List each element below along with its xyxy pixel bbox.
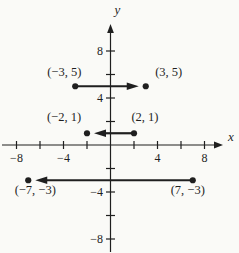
figure-page: xy−8−448−8−448(−3, 5)(3, 5)(2, 1)(−2, 1)… xyxy=(0,0,239,253)
point-label: (7, −3) xyxy=(171,183,205,197)
x-tick-label: 4 xyxy=(155,151,161,165)
vector-end-dot xyxy=(25,177,31,183)
vector-start-dot xyxy=(131,130,137,136)
y-axis-label: y xyxy=(113,2,121,17)
point-label: (3, 5) xyxy=(155,65,182,79)
vector-start-dot xyxy=(72,83,78,89)
y-tick-label: 4 xyxy=(97,91,103,105)
x-tick-label: 8 xyxy=(202,151,208,165)
x-axis-arrowhead-icon xyxy=(214,142,223,149)
vector-end-dot xyxy=(84,130,90,136)
point-label: (2, 1) xyxy=(131,110,158,124)
vector-end-dot xyxy=(143,83,149,89)
coordinate-plane: xy−8−448−8−448(−3, 5)(3, 5)(2, 1)(−2, 1)… xyxy=(0,0,239,253)
x-tick-label: −8 xyxy=(10,151,23,165)
vector-start-dot xyxy=(190,177,196,183)
y-tick-label: −4 xyxy=(90,185,103,199)
y-tick-label: −8 xyxy=(90,232,103,246)
y-tick-label: 8 xyxy=(97,44,103,58)
x-axis-label: x xyxy=(227,129,234,144)
vector-arrowhead-icon xyxy=(94,130,106,137)
point-label: (−3, 5) xyxy=(47,65,81,79)
x-tick-label: −4 xyxy=(57,151,70,165)
y-axis-arrowhead-icon xyxy=(107,24,114,33)
vector-arrowhead-icon xyxy=(127,83,139,90)
point-label: (−2, 1) xyxy=(47,110,81,124)
point-label: (−7, −3) xyxy=(15,183,56,197)
